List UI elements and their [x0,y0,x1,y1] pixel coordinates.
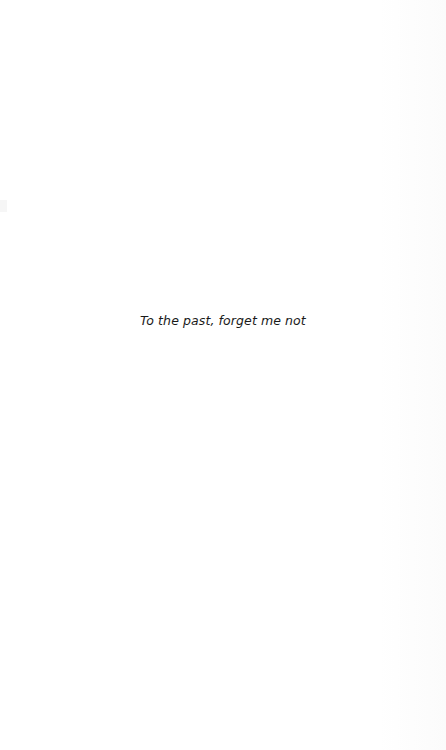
page-edge-mark [0,200,7,212]
epigraph-text: To the past, forget me not [0,312,446,330]
book-page: To the past, forget me not [0,0,446,750]
